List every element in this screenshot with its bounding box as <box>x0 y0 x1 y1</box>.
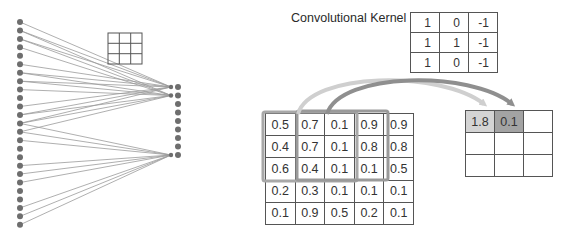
input-cell: 0.1 <box>354 158 384 180</box>
convolutional-kernel-matrix: 10-1 11-1 10-1 <box>410 12 498 73</box>
input-node <box>17 163 23 169</box>
input-node <box>17 19 23 25</box>
input-node <box>17 222 23 228</box>
input-node <box>17 27 23 33</box>
kernel-cell: 1 <box>411 53 440 73</box>
input-matrix: 0.50.70.10.90.9 0.40.70.10.80.8 0.60.40.… <box>265 113 414 225</box>
connection-line <box>20 140 171 155</box>
kernel-cell: 1 <box>411 33 440 53</box>
input-cell: 0.9 <box>384 114 414 136</box>
output-node <box>175 144 181 150</box>
connection-line <box>20 155 171 225</box>
input-cell: 0.5 <box>384 158 414 180</box>
small-kernel-grid-icon <box>108 33 142 64</box>
input-cell: 0.9 <box>295 202 325 224</box>
input-cell: 0.8 <box>354 136 384 158</box>
connection-line <box>20 155 171 183</box>
input-cell: 0.1 <box>354 180 384 202</box>
junction-dot <box>169 153 173 157</box>
output-node <box>175 84 181 90</box>
input-cell: 0.7 <box>295 136 325 158</box>
input-node <box>17 180 23 186</box>
output-node <box>175 127 181 133</box>
output-node-column <box>175 84 181 158</box>
input-node <box>17 87 23 93</box>
input-cell: 0.1 <box>384 180 414 202</box>
input-node <box>17 104 23 110</box>
kernel-cell: -1 <box>469 13 498 33</box>
connection-line <box>20 30 171 87</box>
junction-dot <box>169 93 173 97</box>
input-cell: 0.2 <box>266 180 296 202</box>
input-node <box>17 213 23 219</box>
output-node <box>175 101 181 107</box>
input-cell: 0.6 <box>266 158 296 180</box>
connection-line <box>20 87 171 107</box>
output-node <box>175 118 181 124</box>
kernel-cell: 1 <box>440 33 469 53</box>
output-cell <box>495 133 524 155</box>
kernel-cell: 1 <box>411 13 440 33</box>
input-node <box>17 53 23 59</box>
input-node <box>17 137 23 143</box>
connection-line <box>20 123 171 155</box>
input-node <box>17 154 23 160</box>
junction-dot <box>169 85 173 89</box>
input-cell: 0.4 <box>295 158 325 180</box>
output-cell-highlight-dark: 0.1 <box>495 111 524 133</box>
input-cell: 0.1 <box>384 202 414 224</box>
input-cell: 0.1 <box>325 114 355 136</box>
input-node <box>17 95 23 101</box>
kernel-cell: 0 <box>440 13 469 33</box>
kernel-label: Convolutional Kernel <box>291 11 406 25</box>
input-node <box>17 205 23 211</box>
connection-lines <box>20 22 173 225</box>
connection-line <box>20 73 171 96</box>
connection-line <box>20 39 171 96</box>
input-node <box>17 112 23 118</box>
output-cell <box>466 155 495 177</box>
input-node <box>17 188 23 194</box>
output-cell <box>524 133 553 155</box>
output-cell <box>495 155 524 177</box>
input-cell: 0.3 <box>295 180 325 202</box>
output-cell <box>524 111 553 133</box>
input-node <box>17 61 23 67</box>
output-cell <box>466 133 495 155</box>
input-node <box>17 120 23 126</box>
input-node <box>17 171 23 177</box>
input-cell: 0.1 <box>325 180 355 202</box>
arrow-dark-icon <box>327 80 512 114</box>
output-node <box>175 152 181 158</box>
input-node <box>17 78 23 84</box>
input-node-column <box>17 19 23 228</box>
kernel-cell: -1 <box>469 33 498 53</box>
arrow-light-icon <box>298 80 484 114</box>
input-node <box>17 129 23 135</box>
connection-line <box>20 30 171 95</box>
input-cell: 0.1 <box>266 202 296 224</box>
output-cell-highlight-light: 1.8 <box>466 111 495 133</box>
output-node <box>175 93 181 99</box>
input-node <box>17 196 23 202</box>
input-cell: 0.5 <box>325 202 355 224</box>
input-cell: 0.1 <box>325 136 355 158</box>
input-node <box>17 146 23 152</box>
connection-line <box>20 96 171 124</box>
connection-line <box>20 96 171 115</box>
connection-line <box>20 155 171 208</box>
neural-network-diagram <box>0 0 200 236</box>
input-cell: 0.4 <box>266 136 296 158</box>
input-cell: 0.5 <box>266 114 296 136</box>
input-cell: 0.7 <box>295 114 325 136</box>
kernel-cell: 0 <box>440 53 469 73</box>
output-feature-map: 1.80.1 <box>465 110 553 177</box>
input-cell: 0.1 <box>325 158 355 180</box>
output-node <box>175 110 181 116</box>
output-cell <box>524 155 553 177</box>
connection-line <box>20 132 171 155</box>
input-cell: 0.2 <box>354 202 384 224</box>
kernel-cell: -1 <box>469 53 498 73</box>
input-cell: 0.8 <box>384 136 414 158</box>
input-cell: 0.9 <box>354 114 384 136</box>
